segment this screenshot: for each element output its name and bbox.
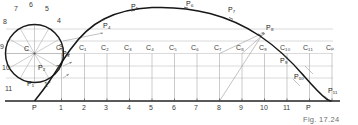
base-label-start: P — [32, 104, 37, 111]
centre-label-c8: C₈ — [236, 44, 244, 51]
cycloid-label-p9: P₉ — [280, 57, 287, 64]
base-tick-6: 6 — [172, 104, 176, 111]
cycloid-figure: 6 5 4 3 2 1 7 8 9 10 11 C C₀ C₁ C₂ C₃ C₄… — [0, 0, 358, 125]
circle-division-1: 1 — [44, 81, 48, 88]
cycloid-label-p4: P₄ — [103, 22, 111, 29]
centre-label-c1: C₁ — [79, 44, 86, 51]
cycloid-label-p11: P₁₁ — [328, 87, 337, 94]
circle-division-8: 8 — [3, 18, 7, 25]
cycloid-label-p7: P₇ — [228, 6, 235, 13]
circle-division-4: 4 — [57, 17, 61, 24]
centre-label-c3: C₃ — [124, 44, 132, 51]
cycloid-label-p6: P₆ — [186, 0, 194, 7]
circle-division-2: 2 — [56, 64, 60, 71]
circle-division-6: 6 — [29, 1, 33, 8]
construction-rays — [63, 32, 313, 101]
circle-division-11: 11 — [5, 85, 12, 92]
centre-label-c5: C₅ — [169, 44, 177, 51]
base-tick-7: 7 — [194, 104, 198, 111]
centre-label-c9: C₉ — [259, 44, 267, 51]
cycloid-label-p10: P₁₀ — [294, 73, 304, 80]
centre-label-c10: C₁₀ — [280, 44, 290, 51]
ordinate-lines — [62, 54, 333, 102]
centre-label-c7: C₇ — [214, 44, 221, 51]
base-label-end: P — [306, 104, 311, 111]
centre-label-c11: C₁₁ — [303, 44, 313, 51]
cycloid-point-ticks — [47, 7, 329, 99]
base-tick-11: 11 — [283, 104, 290, 111]
circle-division-10: 10 — [2, 64, 10, 71]
cycloid-label-p1: P₁ — [27, 80, 34, 87]
cycloid-label-p5: P₅ — [131, 3, 139, 10]
cycloid-label-p3: P₃ — [62, 50, 70, 57]
base-tick-1: 1 — [59, 104, 63, 111]
circle-division-7: 7 — [14, 5, 18, 12]
centre-label-c6: C₆ — [191, 44, 199, 51]
figure-caption: Fig. 17.24 — [303, 115, 339, 124]
base-tick-5: 5 — [149, 104, 153, 111]
base-tick-2: 2 — [82, 104, 86, 111]
centre-label-c2: C₂ — [101, 44, 109, 51]
point-markers — [33, 52, 35, 54]
circle-division-5: 5 — [45, 5, 49, 12]
figure-canvas — [0, 0, 358, 125]
cycloid-label-p2: P₂ — [38, 64, 45, 71]
centre-label-cp: Cₚ — [326, 44, 334, 51]
base-tick-4: 4 — [127, 104, 131, 111]
base-tick-3: 3 — [104, 104, 108, 111]
base-tick-10: 10 — [260, 104, 268, 111]
base-tick-9: 9 — [239, 104, 243, 111]
cycloid-label-p8: P₈ — [266, 24, 274, 31]
base-tick-8: 8 — [217, 104, 221, 111]
circle-division-9: 9 — [0, 43, 4, 50]
circle-centre-label: C — [24, 45, 29, 52]
centre-label-c4: C₄ — [146, 44, 154, 51]
